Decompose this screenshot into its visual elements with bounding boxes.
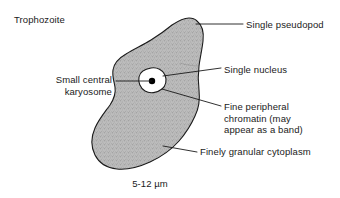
size-caption: 5-12 µm	[110, 178, 190, 190]
label-single-nucleus: Single nucleus	[224, 64, 287, 76]
label-finely-granular-cytoplasm: Finely granular cytoplasm	[200, 146, 311, 158]
label-small-central-karyosome: Small central karyosome	[8, 74, 112, 97]
label-single-pseudopod: Single pseudopod	[246, 19, 324, 31]
figure-title: Trophozoite	[14, 14, 65, 26]
trophozoite-figure: Trophozoite Single pseudopod Single nucl…	[0, 0, 340, 198]
label-fine-peripheral-chromatin: Fine peripheral chromatin (may appear as…	[224, 101, 303, 136]
